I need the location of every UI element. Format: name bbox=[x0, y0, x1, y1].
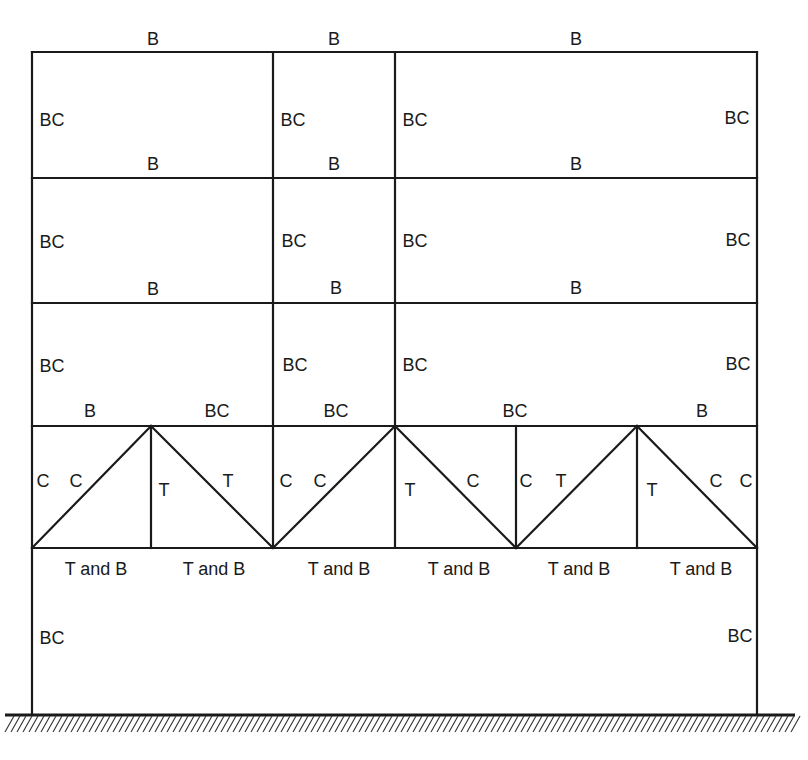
member-label: BC bbox=[39, 629, 64, 647]
member-label: BC bbox=[725, 355, 750, 373]
member-label: BC bbox=[39, 233, 64, 251]
member-label: B bbox=[570, 30, 582, 48]
member-label: C bbox=[467, 472, 480, 490]
truss-diagonal bbox=[32, 426, 151, 548]
member-label: BC bbox=[725, 231, 750, 249]
member-label: B bbox=[147, 280, 159, 298]
member-label: BC bbox=[402, 111, 427, 129]
member-label: B bbox=[570, 155, 582, 173]
member-label: BC bbox=[282, 356, 307, 374]
member-label: T and B bbox=[183, 560, 246, 578]
member-label: BC bbox=[281, 232, 306, 250]
member-label: B bbox=[330, 279, 342, 297]
member-label: T and B bbox=[308, 560, 371, 578]
member-label: B bbox=[570, 279, 582, 297]
member-label: T bbox=[556, 472, 567, 490]
member-label: B bbox=[147, 30, 159, 48]
frame-members bbox=[32, 52, 757, 714]
member-label: BC bbox=[204, 402, 229, 420]
member-label: C bbox=[280, 472, 293, 490]
member-label: B bbox=[147, 155, 159, 173]
member-label: C bbox=[314, 472, 327, 490]
member-label: T and B bbox=[65, 560, 128, 578]
member-label: T bbox=[647, 481, 658, 499]
member-label: C bbox=[37, 472, 50, 490]
member-label: T bbox=[159, 481, 170, 499]
member-label: C bbox=[520, 472, 533, 490]
member-label: C bbox=[740, 472, 753, 490]
member-label: BC bbox=[402, 232, 427, 250]
ground-support bbox=[5, 715, 800, 732]
member-label: BC bbox=[323, 402, 348, 420]
member-label: B bbox=[328, 30, 340, 48]
member-label: C bbox=[70, 472, 83, 490]
member-label: B bbox=[696, 402, 708, 420]
member-label: BC bbox=[727, 627, 752, 645]
member-label: BC bbox=[280, 111, 305, 129]
member-label: B bbox=[328, 155, 340, 173]
member-label: BC bbox=[402, 356, 427, 374]
member-label: T and B bbox=[670, 560, 733, 578]
member-label: BC bbox=[724, 109, 749, 127]
member-label: BC bbox=[39, 111, 64, 129]
member-label: T and B bbox=[428, 560, 491, 578]
member-label: BC bbox=[502, 402, 527, 420]
member-label: BC bbox=[39, 357, 64, 375]
member-label: T bbox=[405, 481, 416, 499]
member-label: B bbox=[84, 402, 96, 420]
member-label: T and B bbox=[548, 560, 611, 578]
truss-diagonal bbox=[516, 426, 637, 548]
member-label: T bbox=[223, 472, 234, 490]
member-label: C bbox=[710, 472, 723, 490]
